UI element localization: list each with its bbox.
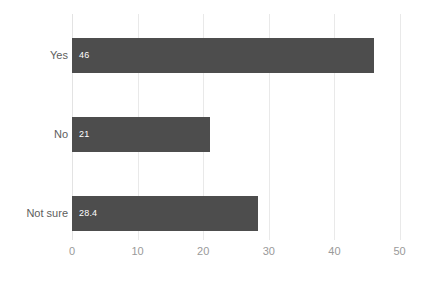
category-label-no: No: [54, 117, 68, 152]
xtick-label-40: 40: [314, 245, 354, 257]
bar-chart: 46 21 28.4 Yes No Not sure 0 10 20 30 40…: [0, 0, 425, 284]
category-label-not-sure: Not sure: [26, 196, 68, 231]
xtick-label-10: 10: [118, 245, 158, 257]
xtick-label-50: 50: [380, 245, 420, 257]
bar-not-sure[interactable]: [72, 196, 258, 231]
bar-value-label: 28.4: [79, 196, 97, 231]
gridline-50: [400, 14, 401, 240]
category-label-yes: Yes: [50, 38, 68, 73]
xtick-label-30: 30: [249, 245, 289, 257]
bar-value-label: 21: [79, 117, 89, 152]
bar-value-label: 46: [79, 38, 89, 73]
bar-yes[interactable]: [72, 38, 374, 73]
xtick-label-0: 0: [52, 245, 92, 257]
xtick-label-20: 20: [183, 245, 223, 257]
bar-row-no: 21: [72, 117, 210, 152]
bar-no[interactable]: [72, 117, 210, 152]
bar-row-yes: 46: [72, 38, 374, 73]
bar-row-not-sure: 28.4: [72, 196, 258, 231]
plot-area: 46 21 28.4: [72, 14, 400, 240]
